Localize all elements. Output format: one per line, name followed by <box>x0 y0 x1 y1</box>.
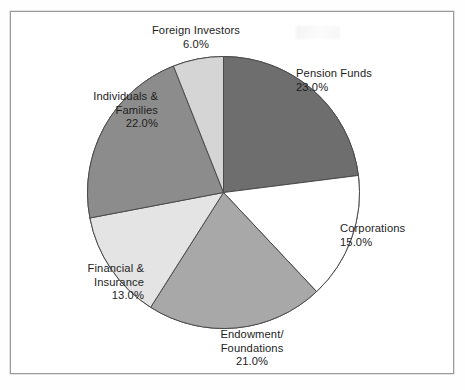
pie-chart-figure: Foreign Investors 6.0% Pension Funds 23.… <box>0 0 465 390</box>
slice-label-financial-insurance: Financial & Insurance 13.0% <box>28 262 144 303</box>
slice-label-foreign-investors-name: Foreign Investors <box>152 24 240 36</box>
slice-label-endowment-foundations-name-2: Foundations <box>182 342 322 356</box>
slice-label-endowment-foundations: Endowment/ Foundations 21.0% <box>182 328 322 369</box>
slice-label-corporations-name: Corporations <box>340 222 405 234</box>
slice-label-individuals-families: Individuals & Families 22.0% <box>18 90 158 131</box>
slice-label-foreign-investors-pct: 6.0% <box>116 38 276 52</box>
slice-label-individuals-families-pct: 22.0% <box>18 117 158 131</box>
slice-label-pension-funds-name: Pension Funds <box>296 67 372 79</box>
slice-label-individuals-families-name-2: Families <box>18 104 158 118</box>
slice-label-financial-insurance-pct: 13.0% <box>28 289 144 303</box>
slice-label-endowment-foundations-pct: 21.0% <box>182 355 322 369</box>
slice-label-endowment-foundations-name-1: Endowment/ <box>220 328 283 340</box>
slice-label-corporations: Corporations 15.0% <box>340 222 450 249</box>
slice-label-foreign-investors: Foreign Investors 6.0% <box>116 24 276 51</box>
slice-label-financial-insurance-name-2: Insurance <box>28 276 144 290</box>
slice-label-financial-insurance-name-1: Financial & <box>88 262 144 274</box>
slice-label-pension-funds: Pension Funds 23.0% <box>296 67 416 94</box>
slice-label-pension-funds-pct: 23.0% <box>296 81 416 95</box>
slice-label-corporations-pct: 15.0% <box>340 236 450 250</box>
slice-label-individuals-families-name-1: Individuals & <box>93 90 158 102</box>
